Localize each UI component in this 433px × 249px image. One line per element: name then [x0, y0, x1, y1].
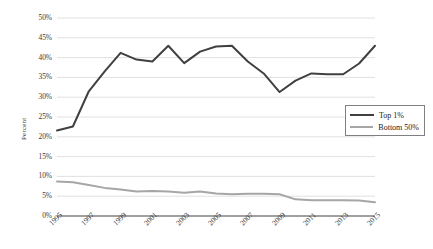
legend-item: Top 1% — [350, 109, 419, 121]
gridlines — [57, 18, 375, 196]
series-line-bottom-50 — [57, 182, 375, 203]
legend-label: Bottom 50% — [378, 123, 419, 132]
line-chart: Percent 0%5%10%15%20%25%30%35%40%45%50% … — [0, 0, 433, 249]
series-line-top-1 — [57, 46, 375, 131]
legend-item: Bottom 50% — [350, 121, 419, 133]
legend-swatch-top-1-percent — [350, 114, 374, 116]
series-layer — [57, 46, 375, 202]
legend-label: Top 1% — [379, 111, 404, 120]
legend-swatch-bottom-50-percent — [350, 126, 373, 128]
chart-legend: Top 1% Bottom 50% — [345, 105, 425, 136]
